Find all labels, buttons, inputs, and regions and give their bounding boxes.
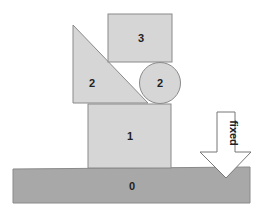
block-3-label: 3 [138, 32, 144, 44]
triangle-block-label: 2 [89, 77, 95, 89]
circle-block-label: 2 [157, 77, 163, 89]
ground-block: 0 [13, 167, 250, 203]
ground-block-label: 0 [129, 180, 135, 192]
block-3: 3 [108, 14, 172, 62]
block-stack-diagram: 0 1 2 2 3 fixed [0, 0, 263, 214]
block-1-label: 1 [127, 130, 133, 142]
fixed-arrow-label: fixed [228, 120, 240, 146]
circle-block: 2 [140, 63, 181, 104]
block-1: 1 [88, 104, 171, 168]
